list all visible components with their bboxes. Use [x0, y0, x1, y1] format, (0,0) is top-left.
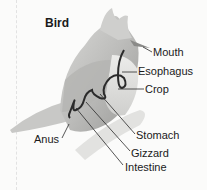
label-esophagus: Esophagus [138, 66, 193, 77]
label-anus: Anus [34, 134, 59, 145]
label-crop: Crop [145, 84, 169, 95]
bird-illustration [0, 0, 207, 190]
label-intestine: Intestine [125, 162, 167, 173]
label-stomach: Stomach [136, 130, 179, 141]
label-mouth: Mouth [153, 47, 184, 58]
label-gizzard: Gizzard [131, 148, 169, 159]
bird-digestive-diagram: Bird Mouth Esophagus Crop Stomach Gizzar… [0, 0, 207, 190]
diagram-title: Bird [45, 16, 69, 30]
